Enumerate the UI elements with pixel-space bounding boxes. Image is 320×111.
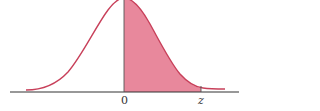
zero-label: 0 [121, 94, 128, 107]
z-label: z [198, 94, 204, 107]
